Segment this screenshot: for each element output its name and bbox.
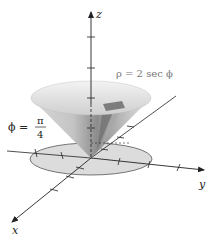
x-tick [127, 126, 134, 127]
x-axis-label: x [12, 224, 19, 234]
surface-equation-label: ρ = 2 sec ϕ [116, 68, 173, 79]
angle-numerator: π [37, 115, 44, 126]
angle-label: ϕ = [8, 121, 28, 134]
angle-denominator: 4 [37, 129, 43, 140]
y-axis-label: y [198, 178, 206, 191]
z-axis-label: z [95, 8, 102, 21]
cone-diagram: z y x ρ = 2 sec ϕ ϕ = π 4 [0, 0, 212, 234]
